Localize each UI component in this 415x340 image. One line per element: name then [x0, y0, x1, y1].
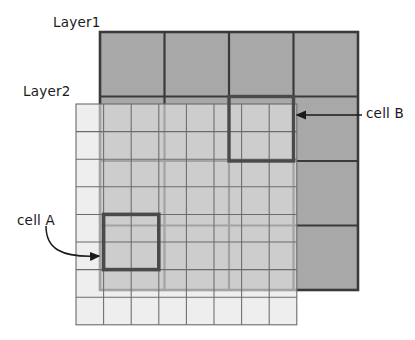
cell-b-label: cell B — [366, 105, 404, 121]
diagram-canvas: Layer1 Layer2 cell A cell B — [0, 0, 415, 340]
cell-a-label: cell A — [17, 212, 55, 228]
layer1-label: Layer1 — [53, 14, 100, 30]
grid-layers-graphic — [0, 0, 415, 340]
layer2-label: Layer2 — [23, 83, 70, 99]
